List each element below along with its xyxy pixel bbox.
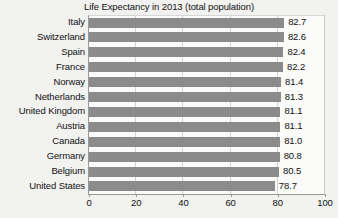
bar-row: Germany80.8 — [0, 149, 338, 164]
value-label: 80.8 — [284, 150, 302, 161]
category-label: Italy — [0, 16, 85, 27]
value-label: 81.0 — [284, 135, 302, 146]
bar — [89, 181, 275, 191]
category-label: Netherlands — [0, 91, 85, 102]
value-label: 82.2 — [287, 61, 305, 72]
bar-row: Switzerland82.6 — [0, 30, 338, 45]
bar-row: Netherlands81.3 — [0, 90, 338, 105]
x-tick-label: 60 — [216, 197, 246, 208]
category-label: Norway — [0, 76, 85, 87]
value-label: 82.6 — [288, 31, 306, 42]
value-label: 82.4 — [287, 46, 305, 57]
bar-row: United States78.7 — [0, 179, 338, 194]
bar-chart: Life Expectancy in 2013 (total populatio… — [0, 0, 338, 218]
bar — [89, 77, 281, 87]
x-tick-label: 20 — [121, 197, 151, 208]
value-label: 81.4 — [285, 76, 303, 87]
bar-row: Belgium80.5 — [0, 164, 338, 179]
bar — [89, 32, 284, 42]
category-label: Canada — [0, 135, 85, 146]
value-label: 81.1 — [284, 120, 302, 131]
bar-row: United Kingdom81.1 — [0, 104, 338, 119]
bar — [89, 137, 280, 147]
bar — [89, 47, 283, 57]
chart-title: Life Expectancy in 2013 (total populatio… — [0, 1, 338, 12]
value-label: 80.5 — [283, 165, 301, 176]
bar-row: France82.2 — [0, 60, 338, 75]
x-tick-label: 40 — [168, 197, 198, 208]
category-label: United Kingdom — [0, 105, 85, 116]
category-label: Belgium — [0, 165, 85, 176]
x-tick-label: 100 — [310, 197, 338, 208]
bar — [89, 122, 280, 132]
bar-row: Italy82.7 — [0, 15, 338, 30]
x-tick-label: 0 — [74, 197, 104, 208]
bar — [89, 107, 280, 117]
x-axis: 020406080100 — [0, 197, 338, 211]
category-label: United States — [0, 180, 85, 191]
category-label: Switzerland — [0, 31, 85, 42]
value-label: 82.7 — [288, 16, 306, 27]
bar — [89, 18, 284, 28]
category-label: France — [0, 61, 85, 72]
bars-container: Italy82.7Switzerland82.6Spain82.4France8… — [0, 15, 338, 195]
category-label: Germany — [0, 150, 85, 161]
value-label: 81.1 — [284, 105, 302, 116]
bar-row: Canada81.0 — [0, 134, 338, 149]
bar-row: Spain82.4 — [0, 45, 338, 60]
bar — [89, 62, 283, 72]
bar — [89, 167, 279, 177]
category-label: Austria — [0, 120, 85, 131]
bar — [89, 152, 280, 162]
value-label: 78.7 — [279, 180, 297, 191]
category-label: Spain — [0, 46, 85, 57]
value-label: 81.3 — [285, 91, 303, 102]
x-tick-label: 80 — [263, 197, 293, 208]
bar — [89, 92, 281, 102]
bar-row: Norway81.4 — [0, 75, 338, 90]
bar-row: Austria81.1 — [0, 119, 338, 134]
